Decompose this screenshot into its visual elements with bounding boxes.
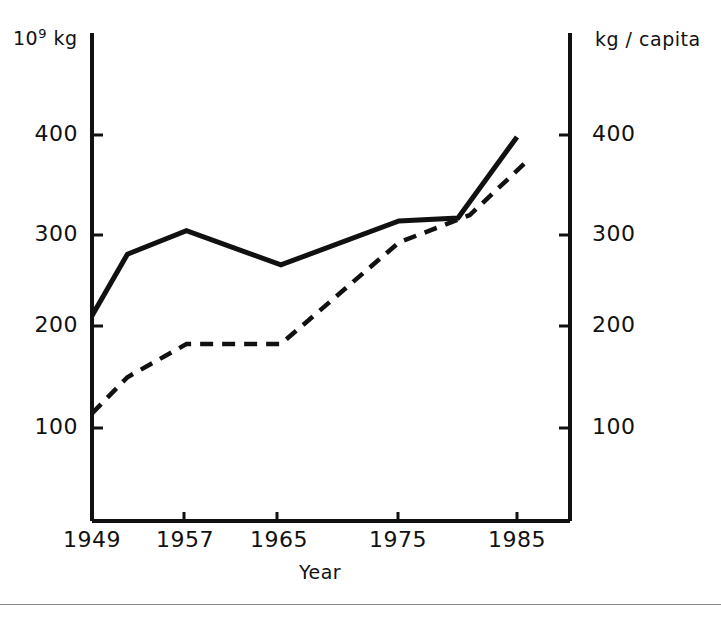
series-line-per-capita	[92, 159, 529, 413]
chart-figure: 109 kg kg / capita 400 300 200 100 400 3…	[0, 0, 721, 618]
plot-area	[0, 0, 721, 618]
page-divider-rule	[0, 604, 721, 605]
series-line-total-production	[92, 137, 517, 316]
